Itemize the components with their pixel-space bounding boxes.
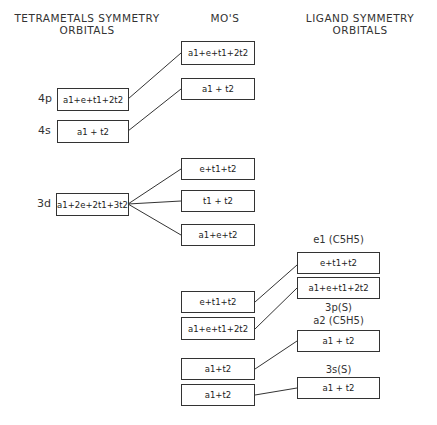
metal-label-4s: 4s	[38, 124, 51, 137]
ligand-label-3s: 3s(S)	[297, 364, 380, 375]
ligand-orbital-3p: a1+e+t1+2t2	[297, 277, 380, 299]
ligand-label-e1: e1 (C5H5)	[297, 234, 380, 245]
mo-box: a1+e+t1+2t2	[181, 317, 255, 340]
mo-box: a1+t2	[181, 384, 255, 406]
mo-box: t1 + t2	[181, 190, 255, 212]
ligand-label-a2: a2 (C5H5)	[297, 315, 380, 326]
ligand-orbital-e1: e+t1+t2	[297, 252, 380, 274]
mo-box: e+t1+t2	[181, 158, 255, 180]
metal-orbital-4s: a1 + t2	[57, 120, 129, 143]
metal-orbital-3d: a1+2e+2t1+3t2	[56, 193, 129, 216]
mo-box: a1+e+t2	[181, 224, 255, 246]
ligand-orbital-a2: a1 + t2	[297, 330, 380, 352]
mo-box: a1+e+t1+2t2	[181, 41, 255, 65]
mo-box: a1+t2	[181, 358, 255, 380]
metal-label-4p: 4p	[38, 92, 52, 105]
ligand-orbital-3s: a1 + t2	[297, 377, 380, 399]
ligand-label-3p: 3p(S)	[297, 302, 380, 313]
mo-box: a1 + t2	[181, 78, 255, 100]
metal-orbital-4p: a1+e+t1+2t2	[57, 88, 129, 111]
metal-label-3d: 3d	[37, 197, 51, 210]
mo-box: e+t1+t2	[181, 291, 255, 313]
